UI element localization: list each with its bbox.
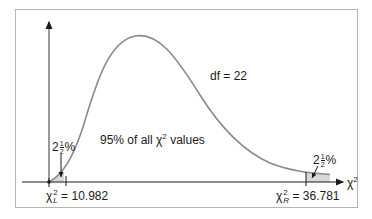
df-label: df = 22 xyxy=(210,70,247,82)
fraction-half: 12 xyxy=(321,153,325,168)
fraction-half: 12 xyxy=(60,140,64,155)
center-area-label: 95% of all χ2 values xyxy=(100,133,205,146)
density-curve xyxy=(49,36,330,182)
left-critical-value-label: χ2L = 10.982 xyxy=(46,189,108,205)
x-axis-label: χ2 xyxy=(347,176,358,189)
right-tail-percent-label: 212% xyxy=(313,153,336,168)
right-critical-value-label: χ2R = 36.781 xyxy=(276,189,339,205)
chart-canvas xyxy=(0,0,372,219)
left-tail-percent-label: 212% xyxy=(52,140,75,155)
chi-square-figure: df = 22 95% of all χ2 values 212% 212% χ… xyxy=(0,0,372,219)
